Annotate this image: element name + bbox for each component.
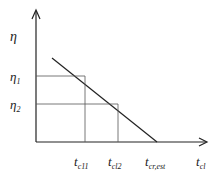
eta-decline-line bbox=[52, 58, 157, 142]
x-axis-label: tcl bbox=[196, 155, 205, 171]
y-axis-label: η bbox=[10, 30, 17, 44]
eta-vs-tcl-diagram: η η1 η2 tc11 tcl2 tcr,est tcl bbox=[0, 0, 220, 180]
y-tick-eta1: η1 bbox=[10, 70, 20, 86]
y-tick-eta2: η2 bbox=[10, 98, 20, 114]
x-tick-tc11: tc11 bbox=[74, 155, 89, 171]
x-tick-tcr-est: tcr,est bbox=[145, 155, 165, 171]
diagram-lines bbox=[0, 0, 220, 180]
x-tick-tcl2: tcl2 bbox=[108, 155, 121, 171]
